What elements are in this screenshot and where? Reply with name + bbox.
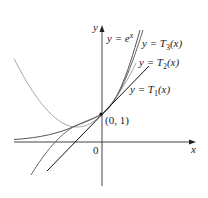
x-axis-label: x bbox=[190, 143, 196, 155]
label-T3: y = T3(x) bbox=[141, 37, 182, 52]
y-axis-arrow-icon bbox=[100, 25, 105, 32]
taylor-diagram: y x 0 (0, 1) y = ex y = T3(x) y = T2(x) … bbox=[0, 0, 208, 198]
label-exp: y = ex bbox=[106, 31, 134, 44]
origin-label: 0 bbox=[93, 144, 99, 156]
label-T2: y = T2(x) bbox=[138, 56, 179, 71]
point-label: (0, 1) bbox=[105, 114, 129, 127]
y-axis-label: y bbox=[92, 21, 98, 33]
curve-T3 bbox=[31, 30, 143, 175]
label-T1: y = T1(x) bbox=[129, 83, 170, 98]
point-0-1 bbox=[99, 112, 102, 115]
